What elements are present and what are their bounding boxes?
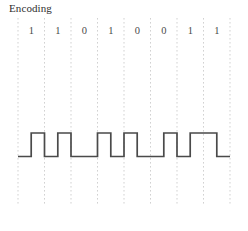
bit-label: 0 <box>71 25 98 37</box>
bit-label: 1 <box>18 25 45 37</box>
gridlines-group <box>18 18 230 205</box>
encoding-figure: Encoding 11010011 <box>0 0 248 231</box>
bit-label: 0 <box>151 25 178 37</box>
bit-label: 1 <box>204 25 231 37</box>
bit-label: 1 <box>177 25 204 37</box>
bit-label: 1 <box>98 25 125 37</box>
plot-area: 11010011 <box>0 0 248 231</box>
bit-label: 0 <box>124 25 151 37</box>
bit-label: 1 <box>45 25 72 37</box>
signal-waveform <box>18 133 230 157</box>
